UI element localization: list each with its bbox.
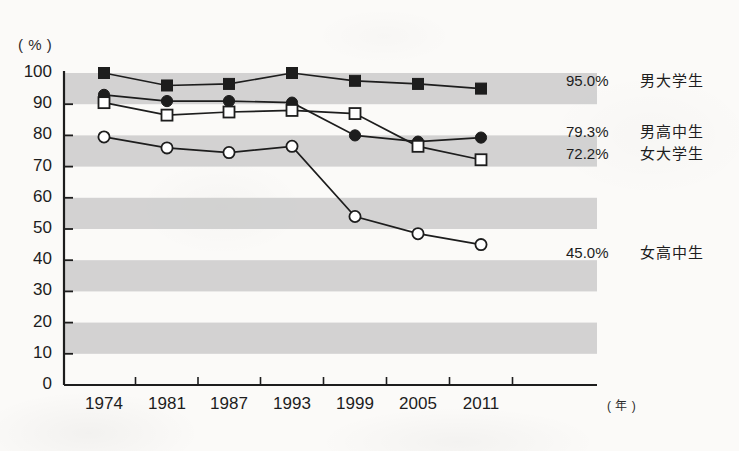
data-point-marker (161, 142, 172, 153)
y-tick-label: 100 (8, 62, 52, 82)
series-legend-item: 95.0%男大学生 (566, 69, 704, 90)
grid-band (64, 135, 597, 166)
series-legend-item: 79.3%男高中生 (566, 120, 704, 141)
data-point-marker (413, 141, 424, 152)
data-point-marker (476, 83, 487, 94)
grid-bands (64, 73, 597, 354)
data-point-marker (413, 78, 424, 89)
data-point-marker (99, 97, 110, 108)
y-tick-label: 80 (8, 124, 52, 144)
series-legend-item: 72.2%女大学生 (566, 142, 704, 163)
grid-band (64, 323, 597, 354)
series-name: 男大学生 (640, 69, 704, 90)
data-point-marker (162, 80, 173, 91)
x-tick-label: 1974 (74, 394, 134, 414)
x-tick-label: 2011 (451, 394, 511, 414)
series-end-value: 79.3% (566, 123, 624, 140)
data-point-marker (161, 95, 172, 106)
x-axis-ticks (64, 377, 513, 385)
series-end-value: 72.2% (566, 145, 624, 162)
x-tick-label: 1993 (262, 394, 322, 414)
data-point-marker (224, 78, 235, 89)
series-end-value: 45.0% (566, 244, 624, 261)
y-tick-label: 30 (8, 280, 52, 300)
y-tick-label: 50 (8, 218, 52, 238)
chart-screenshot: ( % ) ( 年 ) 0102030405060708090100 19741… (0, 0, 739, 451)
data-point-marker (162, 110, 173, 121)
data-point-marker (349, 130, 360, 141)
x-tick-label: 1987 (199, 394, 259, 414)
data-point-marker (475, 132, 486, 143)
y-tick-label: 0 (8, 374, 52, 394)
y-tick-label: 70 (8, 156, 52, 176)
data-point-marker (350, 75, 361, 86)
series-name: 女大学生 (640, 142, 704, 163)
data-point-marker (98, 131, 109, 142)
data-point-marker (223, 95, 234, 106)
data-point-marker (287, 68, 298, 79)
y-tick-label: 40 (8, 249, 52, 269)
series-name: 女高中生 (640, 241, 704, 262)
data-point-marker (349, 211, 360, 222)
series-name: 男高中生 (640, 120, 704, 141)
data-point-marker (412, 228, 423, 239)
series-legend-item: 45.0%女高中生 (566, 241, 704, 262)
data-point-marker (476, 154, 487, 165)
data-point-marker (223, 147, 234, 158)
grid-band (64, 198, 597, 229)
data-point-marker (286, 141, 297, 152)
y-tick-label: 20 (8, 312, 52, 332)
y-tick-label: 10 (8, 343, 52, 363)
data-point-marker (224, 107, 235, 118)
data-point-marker (350, 108, 361, 119)
y-tick-label: 60 (8, 187, 52, 207)
x-tick-label: 2005 (388, 394, 448, 414)
data-point-marker (99, 68, 110, 79)
data-point-marker (475, 239, 486, 250)
series-end-value: 95.0% (566, 72, 624, 89)
x-tick-label: 1999 (325, 394, 385, 414)
data-point-marker (287, 105, 298, 116)
y-tick-label: 90 (8, 93, 52, 113)
grid-band (64, 260, 597, 291)
x-tick-label: 1981 (137, 394, 197, 414)
